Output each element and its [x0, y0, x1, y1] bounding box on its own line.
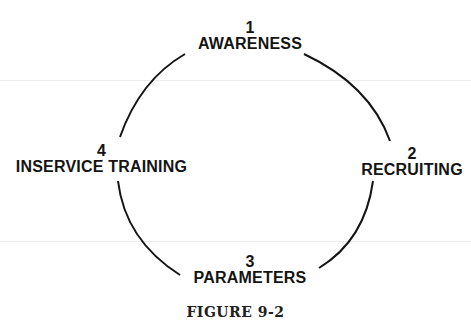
arc-recruiting-to-parameters	[319, 181, 373, 268]
node-label: PARAMETERS	[185, 270, 315, 286]
node-parameters: 3 PARAMETERS	[185, 254, 315, 286]
node-number: 1	[190, 20, 310, 36]
arc-parameters-to-inservice	[118, 181, 180, 275]
node-label: AWARENESS	[190, 36, 310, 52]
arc-inservice-to-awareness	[120, 54, 185, 137]
node-awareness: 1 AWARENESS	[190, 20, 310, 52]
figure-caption: FIGURE 9-2	[0, 304, 471, 320]
node-number: 3	[185, 254, 315, 270]
node-label: RECRUITING	[352, 162, 471, 178]
node-recruiting: 2 RECRUITING	[352, 146, 471, 178]
node-number: 2	[352, 146, 471, 162]
node-label: INSERVICE TRAINING	[14, 159, 189, 175]
arc-awareness-to-recruiting	[304, 54, 390, 141]
node-inservice-training: 4 INSERVICE TRAINING	[14, 143, 189, 175]
node-number: 4	[14, 143, 189, 159]
